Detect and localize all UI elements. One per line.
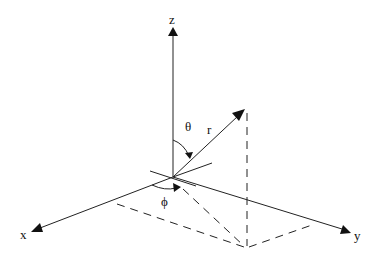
y-axis-label: y — [354, 228, 361, 243]
phi-arrowhead-icon — [173, 183, 181, 192]
x-axis — [40, 177, 173, 228]
x-arrowhead-icon — [31, 223, 43, 232]
projection-r-dashed — [183, 189, 244, 246]
projection-x-dashed — [117, 204, 244, 247]
origin-cross-line-b — [173, 163, 212, 177]
phi-label: ϕ — [161, 194, 168, 209]
phi-arc — [152, 185, 176, 189]
projection-y-dashed — [249, 225, 312, 247]
z-axis-label: z — [169, 12, 175, 27]
spherical-coordinates-diagram: z x y r θ ϕ — [0, 0, 376, 263]
x-axis-label: x — [20, 227, 27, 242]
theta-arrowhead-icon — [185, 152, 193, 159]
theta-label: θ — [185, 119, 191, 134]
r-label: r — [207, 122, 212, 137]
z-arrowhead-icon — [168, 27, 178, 36]
y-arrowhead-icon — [340, 225, 351, 234]
